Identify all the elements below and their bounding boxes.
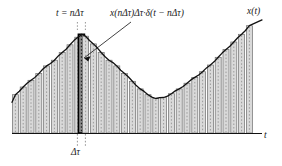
sample-bars-group [12,26,252,133]
delta-tau-label: Δτ [71,148,80,158]
impulse-sampling-figure: t = nΔτ x(nΔτ)Δτ·δ(t − nΔτ) x(t) t Δτ [0,0,282,166]
sample-bar [239,34,245,133]
sample-bar [184,83,190,133]
peak-sample-label: t = nΔτ [56,9,84,19]
peak-label-leader-ticks [77,22,85,30]
formula-leader-line [84,22,131,58]
time-axis-label: t [264,131,267,141]
figure-canvas [0,0,282,166]
signal-label: x(t) [247,7,260,17]
delta-tau-measure [77,134,85,147]
impulse-formula-label: x(nΔτ)Δτ·δ(t − nΔτ) [110,9,184,19]
sample-bar [231,42,237,133]
